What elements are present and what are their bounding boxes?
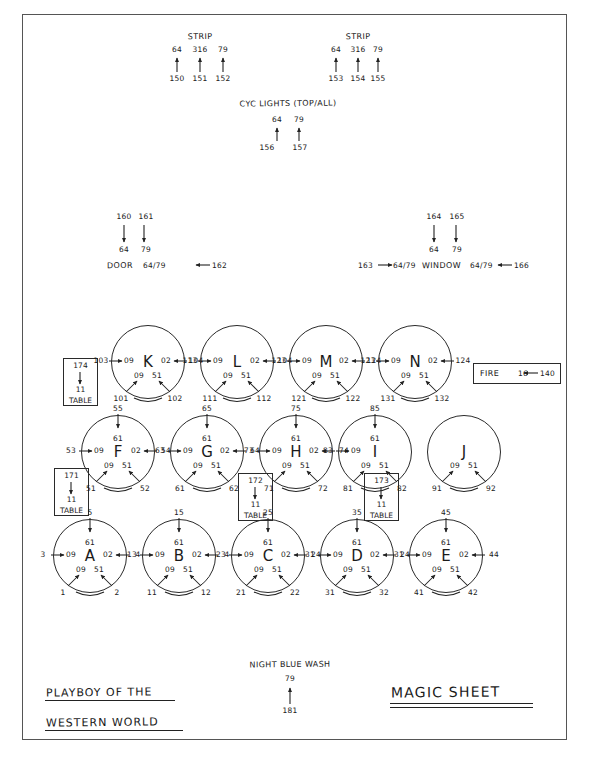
area-i-down-channel-1: 81 <box>343 484 353 493</box>
area-b-top-channel: 15 <box>174 508 184 517</box>
window-right-colors: 64/79 <box>470 261 493 270</box>
area-n-down-channel-1: 131 <box>380 394 395 403</box>
area-d-down-color-1: 09 <box>343 565 353 574</box>
area-d-down-channel-1: 31 <box>325 588 335 597</box>
area-c-down-color-2: 51 <box>272 565 282 574</box>
strip-left-label: STRIP <box>188 32 213 41</box>
area-d-top-channel: 35 <box>352 508 362 517</box>
door-channel-1: 160 <box>116 212 131 221</box>
table-1-channel: 174 <box>73 361 87 370</box>
area-i-top-channel: 85 <box>370 404 380 413</box>
area-f-right-color: 02 <box>131 446 141 455</box>
area-n-down-channel-2: 132 <box>434 394 449 403</box>
area-letter-j: J <box>462 443 466 461</box>
strip-right-channel-2: 154 <box>350 74 365 83</box>
area-a-left-color: 09 <box>66 550 76 559</box>
area-m-right-color: 02 <box>339 356 349 365</box>
area-m-left-color: 09 <box>302 356 312 365</box>
area-letter-e: E <box>441 547 450 565</box>
area-k-down-channel-1: 101 <box>113 394 128 403</box>
area-e-down-channel-2: 42 <box>468 588 478 597</box>
area-b-down-channel-1: 11 <box>147 588 157 597</box>
area-letter-f: F <box>114 443 123 461</box>
table-2-color: 11 <box>67 495 77 504</box>
door-label: DOOR <box>107 261 133 270</box>
door-channel-2: 161 <box>138 212 153 221</box>
area-l-down-channel-1: 111 <box>202 394 217 403</box>
area-letter-l: L <box>233 353 241 371</box>
strip-right-label: STRIP <box>346 32 371 41</box>
door-color-1: 64 <box>119 245 129 254</box>
area-c-down-channel-1: 21 <box>236 588 246 597</box>
area-g-down-color-2: 51 <box>211 461 221 470</box>
area-i-top-color: 61 <box>370 434 380 443</box>
strip-right-channel-1: 153 <box>328 74 343 83</box>
area-e-down-color-1: 09 <box>432 565 442 574</box>
strip-left-channel-2: 151 <box>192 74 207 83</box>
area-m-down-channel-1: 121 <box>291 394 306 403</box>
window-label: WINDOW <box>422 261 461 270</box>
area-b-down-channel-2: 12 <box>201 588 211 597</box>
magic-sheet-page: STRIP 64 316 79 150 151 152 STRIP 64 316… <box>0 0 589 766</box>
table-3-channel: 172 <box>248 476 262 485</box>
area-i-down-color-2: 51 <box>379 461 389 470</box>
area-g-left-color: 09 <box>183 446 193 455</box>
area-i-left-channel: 83 <box>323 446 333 455</box>
area-letter-d: D <box>351 547 363 565</box>
window-color-2: 79 <box>452 245 462 254</box>
cyc-label: CYC LIGHTS (TOP/ALL) <box>240 98 337 108</box>
table-4-color: 11 <box>377 500 387 509</box>
area-c-down-channel-2: 22 <box>290 588 300 597</box>
area-f-top-channel: 55 <box>113 404 123 413</box>
area-k-right-color: 02 <box>161 356 171 365</box>
area-e-top-color: 61 <box>441 538 451 547</box>
area-h-left-color: 09 <box>272 446 282 455</box>
table-2-channel: 171 <box>64 471 78 480</box>
sheet-title: MAGIC SHEET <box>391 683 501 700</box>
area-n-left-color: 09 <box>391 356 401 365</box>
area-a-top-color: 61 <box>85 538 95 547</box>
area-e-left-color: 09 <box>422 550 432 559</box>
area-m-down-color-2: 51 <box>330 371 340 380</box>
area-m-down-channel-2: 122 <box>345 394 360 403</box>
table-4-label: TABLE <box>370 511 393 520</box>
area-n-left-channel: 123 <box>360 356 375 365</box>
door-side-channel: 162 <box>212 261 227 270</box>
area-e-down-channel-1: 41 <box>414 588 424 597</box>
area-f-down-channel-2: 52 <box>140 484 150 493</box>
area-a-down-color-1: 09 <box>76 565 86 574</box>
area-e-right-channel: 44 <box>489 550 499 559</box>
window-right-channel: 166 <box>514 261 529 270</box>
area-g-right-color: 02 <box>220 446 230 455</box>
area-letter-k: K <box>143 353 153 371</box>
area-g-down-channel-2: 62 <box>229 484 239 493</box>
area-g-top-channel: 65 <box>202 404 212 413</box>
show-title-underline-1 <box>45 700 175 701</box>
area-a-down-channel-1: 1 <box>60 588 65 597</box>
area-e-down-color-2: 51 <box>450 565 460 574</box>
table-2-label: TABLE <box>60 506 83 515</box>
area-c-left-channel: 23 <box>216 550 226 559</box>
window-channel-1: 164 <box>426 212 441 221</box>
area-f-top-color: 61 <box>113 434 123 443</box>
area-d-down-channel-2: 32 <box>379 588 389 597</box>
area-b-right-color: 02 <box>192 550 202 559</box>
area-e-top-channel: 45 <box>441 508 451 517</box>
area-n-down-color-1: 09 <box>401 371 411 380</box>
area-letter-a: A <box>85 547 95 565</box>
door-color-2: 79 <box>141 245 151 254</box>
area-h-top-channel: 75 <box>291 404 301 413</box>
area-b-down-color-1: 09 <box>165 565 175 574</box>
cyc-channel-2: 157 <box>292 143 307 152</box>
area-g-down-channel-1: 61 <box>175 484 185 493</box>
strip-left-color-2: 316 <box>192 45 207 54</box>
area-a-left-channel: 3 <box>40 550 45 559</box>
area-h-top-color: 61 <box>291 434 301 443</box>
window-left-colors: 64/79 <box>393 261 416 270</box>
strip-right-color-3: 79 <box>373 45 383 54</box>
area-d-right-color: 02 <box>370 550 380 559</box>
area-e-right-color: 02 <box>459 550 469 559</box>
area-f-down-color-1: 09 <box>104 461 114 470</box>
area-h-right-color: 02 <box>309 446 319 455</box>
area-letter-g: G <box>201 443 213 461</box>
